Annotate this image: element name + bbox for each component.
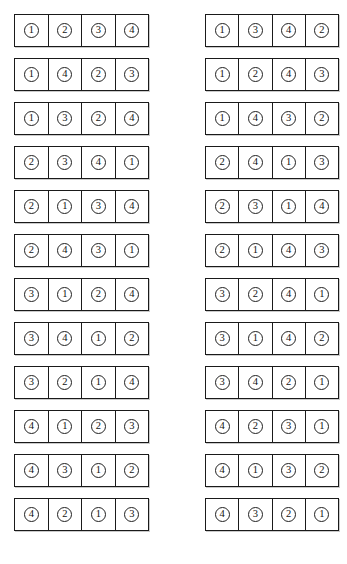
permutation-cell: 1 xyxy=(15,103,49,134)
permutation-strip: 2341 xyxy=(14,146,149,179)
circled-number-token: 1 xyxy=(24,67,39,82)
circled-number-token: 3 xyxy=(91,243,106,258)
permutation-cell: 2 xyxy=(239,59,272,90)
circled-number-token: 2 xyxy=(314,463,329,478)
permutation-cell: 4 xyxy=(15,411,49,442)
circled-number-token: 1 xyxy=(314,287,329,302)
permutation-strip: 3421 xyxy=(205,366,339,399)
permutation-strip: 3124 xyxy=(14,278,149,311)
circled-number-token: 2 xyxy=(248,419,263,434)
permutation-strip: 2134 xyxy=(14,190,149,223)
circled-number-token: 3 xyxy=(215,375,230,390)
circled-number-token: 2 xyxy=(57,23,72,38)
permutation-cell: 2 xyxy=(306,323,338,354)
permutation-cell: 4 xyxy=(116,103,149,134)
permutation-cell: 3 xyxy=(15,279,49,310)
permutation-cell: 2 xyxy=(82,279,116,310)
circled-number-token: 1 xyxy=(57,287,72,302)
permutation-strip: 4321 xyxy=(205,498,339,531)
permutation-cell: 2 xyxy=(273,499,306,530)
permutation-cell: 2 xyxy=(49,15,83,46)
permutation-cell: 4 xyxy=(116,191,149,222)
circled-number-token: 3 xyxy=(57,155,72,170)
permutation-cell: 3 xyxy=(273,103,306,134)
circled-number-token: 1 xyxy=(24,23,39,38)
circled-number-token: 1 xyxy=(124,155,139,170)
permutation-cell: 4 xyxy=(116,15,149,46)
circled-number-token: 2 xyxy=(314,331,329,346)
circled-number-token: 1 xyxy=(57,199,72,214)
permutation-cell: 1 xyxy=(206,103,239,134)
permutation-cell: 2 xyxy=(116,455,149,486)
permutation-cell: 2 xyxy=(206,235,239,266)
circled-number-token: 3 xyxy=(124,419,139,434)
permutation-cell: 4 xyxy=(273,59,306,90)
circled-number-token: 2 xyxy=(124,331,139,346)
permutation-cell: 1 xyxy=(15,15,49,46)
permutation-cell: 2 xyxy=(49,367,83,398)
circled-number-token: 4 xyxy=(248,155,263,170)
left-column: 1234142313242341213424313124341232144123… xyxy=(14,14,149,531)
permutation-strip: 2143 xyxy=(205,234,339,267)
permutation-cell: 1 xyxy=(273,147,306,178)
permutation-strip: 2431 xyxy=(14,234,149,267)
circled-number-token: 2 xyxy=(57,507,72,522)
circled-number-token: 4 xyxy=(215,419,230,434)
permutation-cell: 4 xyxy=(239,147,272,178)
permutation-cell: 1 xyxy=(306,279,338,310)
permutation-cell: 3 xyxy=(49,455,83,486)
circled-number-token: 4 xyxy=(124,111,139,126)
circled-number-token: 4 xyxy=(124,199,139,214)
permutation-cell: 2 xyxy=(82,411,116,442)
permutation-strip: 2413 xyxy=(205,146,339,179)
permutation-cell: 3 xyxy=(239,191,272,222)
permutation-cell: 2 xyxy=(273,367,306,398)
circled-number-token: 1 xyxy=(314,419,329,434)
permutation-cell: 4 xyxy=(273,323,306,354)
permutation-cell: 3 xyxy=(206,279,239,310)
permutation-cell: 1 xyxy=(82,367,116,398)
circled-number-token: 2 xyxy=(314,23,329,38)
permutation-cell: 2 xyxy=(206,147,239,178)
permutation-strip: 3214 xyxy=(14,366,149,399)
right-column: 1342124314322413231421433241314234214231… xyxy=(205,14,339,531)
permutation-cell: 3 xyxy=(116,59,149,90)
permutation-cell: 3 xyxy=(306,235,338,266)
permutation-strip: 1423 xyxy=(14,58,149,91)
circled-number-token: 2 xyxy=(248,287,263,302)
permutation-cell: 1 xyxy=(239,455,272,486)
permutation-cell: 2 xyxy=(206,191,239,222)
circled-number-token: 3 xyxy=(314,243,329,258)
permutation-strip: 4123 xyxy=(14,410,149,443)
permutation-cell: 3 xyxy=(239,15,272,46)
circled-number-token: 4 xyxy=(57,331,72,346)
permutation-cell: 1 xyxy=(49,411,83,442)
circled-number-token: 1 xyxy=(124,243,139,258)
permutation-cell: 1 xyxy=(206,59,239,90)
strip-columns: 1234142313242341213424313124341232144123… xyxy=(0,0,347,564)
circled-number-token: 1 xyxy=(91,463,106,478)
circled-number-token: 2 xyxy=(24,199,39,214)
circled-number-token: 4 xyxy=(124,287,139,302)
permutation-strip: 1432 xyxy=(205,102,339,135)
permutation-cell: 4 xyxy=(49,235,83,266)
permutation-strip: 4231 xyxy=(205,410,339,443)
permutation-cell: 1 xyxy=(306,367,338,398)
circled-number-token: 3 xyxy=(248,507,263,522)
circled-number-token: 1 xyxy=(91,331,106,346)
permutation-cell: 2 xyxy=(306,15,338,46)
permutation-cell: 3 xyxy=(82,235,116,266)
permutation-cell: 3 xyxy=(49,147,83,178)
permutation-cell: 2 xyxy=(239,279,272,310)
permutation-cell: 3 xyxy=(206,323,239,354)
circled-number-token: 2 xyxy=(91,419,106,434)
permutation-cell: 1 xyxy=(15,59,49,90)
permutation-strip: 4312 xyxy=(14,454,149,487)
circled-number-token: 1 xyxy=(215,23,230,38)
circled-number-token: 4 xyxy=(281,67,296,82)
circled-number-token: 3 xyxy=(314,67,329,82)
permutation-cell: 2 xyxy=(15,235,49,266)
permutation-strip: 1324 xyxy=(14,102,149,135)
circled-number-token: 2 xyxy=(24,243,39,258)
permutation-cell: 1 xyxy=(49,279,83,310)
